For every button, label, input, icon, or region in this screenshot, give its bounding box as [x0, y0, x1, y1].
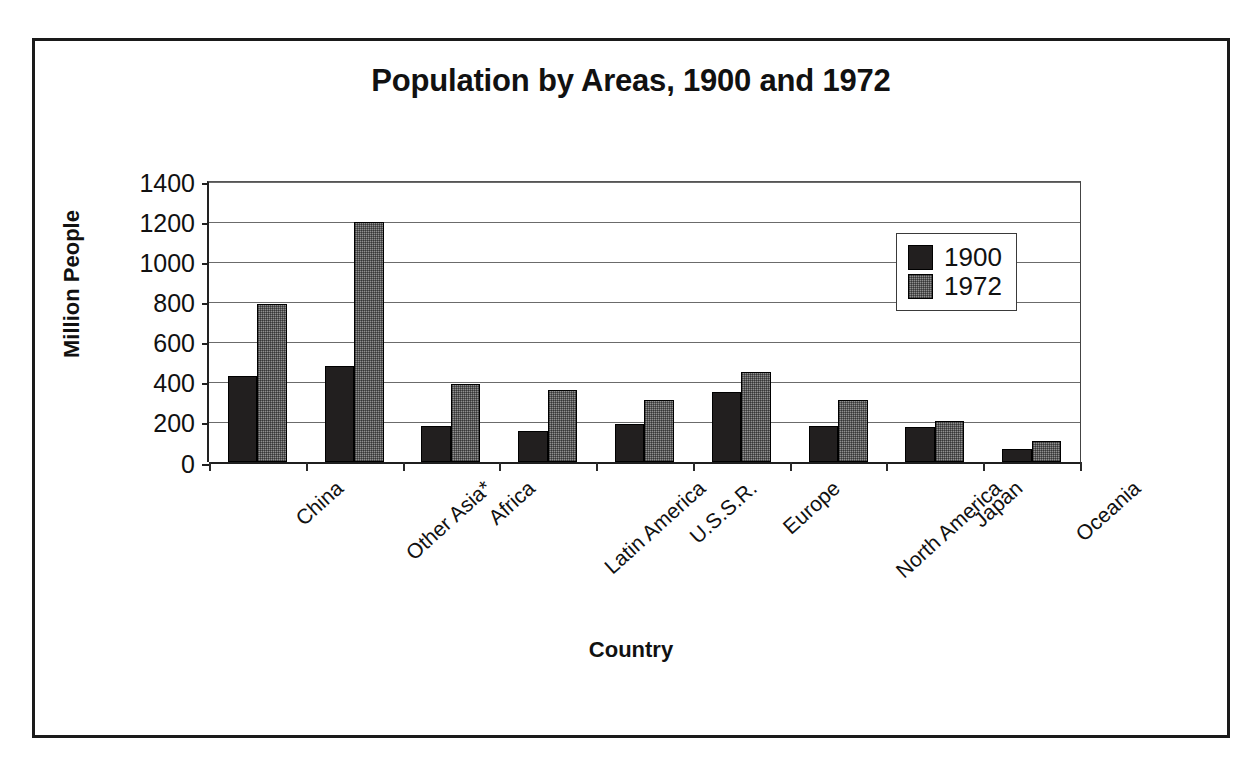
- y-axis-tick-label: 800: [105, 289, 195, 318]
- y-axis-tick: [202, 343, 209, 345]
- bar-1972[interactable]: [644, 400, 674, 462]
- x-axis-tick: [983, 462, 985, 471]
- x-axis-tick: [403, 462, 405, 471]
- y-axis-tick-label: 600: [105, 329, 195, 358]
- bar-group: [499, 182, 596, 462]
- bar-group: [886, 182, 983, 462]
- legend-swatch-1972: [908, 274, 933, 299]
- bar-1972[interactable]: [838, 400, 868, 462]
- y-axis-tick: [202, 183, 209, 185]
- legend-label-1972: 1972: [944, 273, 1002, 299]
- bar-1972[interactable]: [548, 390, 578, 462]
- y-axis-tick: [202, 383, 209, 385]
- y-axis-tick-label: 0: [105, 450, 195, 479]
- y-axis-tick-label: 1000: [105, 249, 195, 278]
- bar-1972[interactable]: [354, 222, 384, 462]
- x-axis-tick: [306, 462, 308, 471]
- bar-1972[interactable]: [1032, 441, 1062, 462]
- x-axis-tick: [790, 462, 792, 471]
- x-axis-title: Country: [35, 637, 1227, 663]
- legend-item-1972[interactable]: 1972: [908, 273, 1002, 299]
- chart-title: Population by Areas, 1900 and 1972: [35, 63, 1227, 99]
- bar-1900[interactable]: [228, 376, 258, 462]
- bar-1900[interactable]: [712, 392, 742, 462]
- bar-1900[interactable]: [325, 366, 355, 462]
- bar-1972[interactable]: [257, 304, 287, 462]
- x-axis-tick: [1080, 462, 1082, 471]
- y-axis-tick: [202, 464, 209, 466]
- y-axis-tick: [202, 223, 209, 225]
- y-axis-tick-label: 1400: [105, 169, 195, 198]
- bar-group: [306, 182, 403, 462]
- bar-1900[interactable]: [518, 431, 548, 462]
- x-axis-category-label: North America: [892, 476, 1007, 583]
- legend-label-1900: 1900: [944, 244, 1002, 270]
- legend-swatch-1900: [908, 245, 933, 270]
- y-axis-tick: [202, 423, 209, 425]
- bar-group: [790, 182, 887, 462]
- chart-legend[interactable]: 1900 1972: [896, 233, 1017, 311]
- x-axis-category-label: Other Asia*: [401, 476, 496, 565]
- bar-group: [693, 182, 790, 462]
- y-axis-title: Million People: [59, 184, 85, 384]
- x-axis-tick: [596, 462, 598, 471]
- gridline: 0: [209, 462, 1080, 464]
- chart-figure-frame: Population by Areas, 1900 and 1972 Milli…: [32, 38, 1230, 738]
- legend-item-1900[interactable]: 1900: [908, 244, 1002, 270]
- bar-1972[interactable]: [451, 384, 481, 462]
- y-axis-tick: [202, 263, 209, 265]
- bar-1900[interactable]: [615, 424, 645, 462]
- bar-group: [983, 182, 1080, 462]
- x-axis-tick: [209, 462, 211, 471]
- x-axis-tick: [499, 462, 501, 471]
- bar-1972[interactable]: [935, 421, 965, 462]
- y-axis-tick: [202, 303, 209, 305]
- x-axis-category-label: Africa: [484, 476, 540, 530]
- x-axis-category-label: Europe: [778, 476, 844, 539]
- x-axis-tick: [693, 462, 695, 471]
- x-axis-category-label: Oceania: [1071, 476, 1145, 546]
- bar-1900[interactable]: [1002, 449, 1032, 462]
- bar-group: [596, 182, 693, 462]
- y-axis-tick-label: 1200: [105, 209, 195, 238]
- y-axis-tick-label: 400: [105, 369, 195, 398]
- bar-group: [209, 182, 306, 462]
- bar-1900[interactable]: [421, 426, 451, 462]
- bar-1972[interactable]: [741, 372, 771, 462]
- bar-1900[interactable]: [905, 427, 935, 462]
- x-axis-category-label: China: [291, 476, 348, 531]
- bar-group: [403, 182, 500, 462]
- y-axis-tick-label: 200: [105, 409, 195, 438]
- plot-area: 1400120010008006004002000 ChinaOther Asi…: [207, 181, 1081, 462]
- bar-1900[interactable]: [809, 426, 839, 462]
- x-axis-tick: [886, 462, 888, 471]
